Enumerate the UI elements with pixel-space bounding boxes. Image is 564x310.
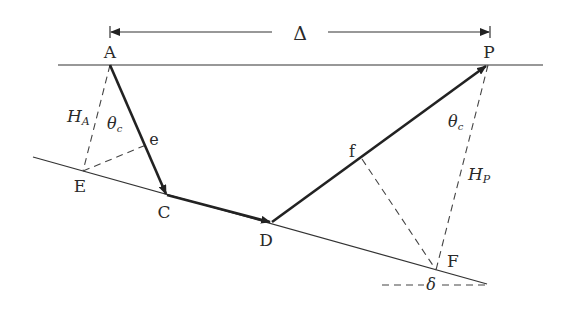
theta-c-right-label: θc bbox=[448, 112, 464, 132]
dip-angle-delta-label: δ bbox=[426, 275, 436, 294]
ray-refracted-arrow bbox=[167, 195, 270, 222]
f-perpendicular bbox=[362, 159, 436, 270]
point-p-label: P bbox=[483, 42, 494, 62]
hp-label: HP bbox=[467, 164, 491, 186]
point-a-label: A bbox=[103, 42, 117, 62]
point-c-label: C bbox=[157, 202, 170, 222]
delta-dimension: Δ bbox=[110, 22, 490, 44]
point-e-label: E bbox=[74, 176, 86, 196]
point-f-label: F bbox=[447, 251, 459, 271]
point-f-small-label: f bbox=[349, 142, 356, 161]
point-e-small-label: e bbox=[149, 130, 158, 149]
theta-c-left-label: θc bbox=[107, 114, 123, 134]
ha-label: HA bbox=[66, 106, 90, 128]
point-d-label: D bbox=[259, 230, 273, 250]
delta-label: Δ bbox=[293, 22, 307, 44]
e-perpendicular bbox=[83, 145, 146, 171]
refraction-diagram: Δ A P E C D F e f HA θc θc HP δ bbox=[0, 0, 564, 310]
